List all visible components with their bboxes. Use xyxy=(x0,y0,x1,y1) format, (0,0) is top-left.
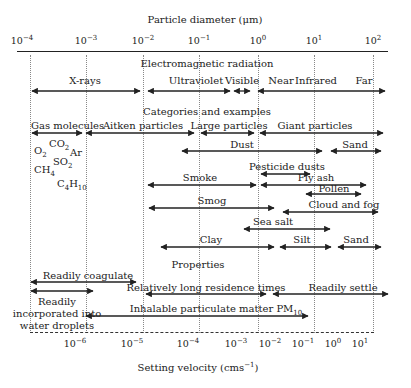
gas-o2: O2 xyxy=(34,146,47,156)
label-xrays: X-rays xyxy=(69,76,101,86)
vtick: 10−3 xyxy=(225,339,247,349)
bottom-axis-line xyxy=(30,332,374,333)
label-long-residence: Relatively long residence times xyxy=(127,283,286,293)
label-sand-1: Sand xyxy=(342,140,368,150)
gas-c4h10: C4H10 xyxy=(57,179,87,189)
vtick: 10−4 xyxy=(177,339,199,349)
label-smog: Smog xyxy=(198,196,227,206)
gas-co2: CO2 xyxy=(49,139,69,149)
label-giant: Giant particles xyxy=(278,121,353,131)
label-incorporated-2: incorporated into xyxy=(13,309,101,319)
label-flyash: Fly ash xyxy=(298,173,335,183)
label-sand-2: Sand xyxy=(343,235,369,245)
section-em-title: Electromagnetic radiation xyxy=(140,59,273,69)
section-properties-title: Properties xyxy=(172,260,225,270)
section-categories-title: Categories and examples xyxy=(143,107,271,117)
label-pm10: Inhalable particulate matter PM10 xyxy=(130,304,303,314)
label-ultraviolet: Ultraviolet xyxy=(169,76,223,86)
label-infrared: Infrared xyxy=(295,76,337,86)
label-readily-settle: Readily settle xyxy=(308,283,377,293)
label-readily-coagulate: Readily coagulate xyxy=(43,271,134,281)
vtick: 10−1 xyxy=(292,339,314,349)
label-near: Near xyxy=(268,76,293,86)
vtick: 10−6 xyxy=(64,339,86,349)
vtick: 10−5 xyxy=(121,339,143,349)
vtick: 101 xyxy=(352,339,369,349)
label-incorporated-3: water droplets xyxy=(20,321,94,331)
label-smoke: Smoke xyxy=(183,173,217,183)
label-gas-molecules: Gas molecules xyxy=(31,121,104,131)
label-large: Large particles xyxy=(190,121,267,131)
gas-so2: SO2 xyxy=(53,157,73,167)
label-pollen: Pollen xyxy=(318,184,349,194)
bottom-axis-title: Setting velocity (cms−1) xyxy=(138,363,259,373)
gas-ch4: CH4 xyxy=(34,165,55,175)
label-cloud-fog: Cloud and fog xyxy=(309,200,380,210)
label-clay: Clay xyxy=(200,235,222,245)
label-pesticide: Pesticide dusts xyxy=(249,162,325,172)
label-silt: Silt xyxy=(293,235,310,245)
label-aitken: Aitken particles xyxy=(103,121,183,131)
vtick: 100 xyxy=(325,339,342,349)
label-far: Far xyxy=(355,76,372,86)
label-sea-salt: Sea salt xyxy=(253,217,293,227)
vtick: 10−2 xyxy=(259,339,281,349)
label-incorporated-1: Readily xyxy=(38,297,76,307)
label-dust: Dust xyxy=(230,140,254,150)
label-visible: Visible xyxy=(225,76,259,86)
